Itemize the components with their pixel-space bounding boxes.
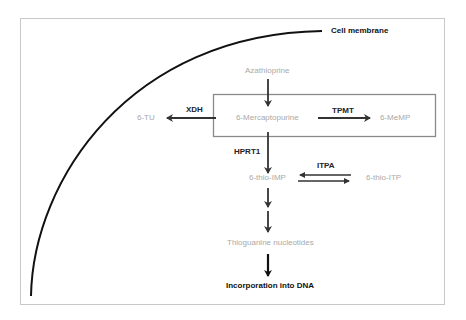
node-incorporation-into-dna: Incorporation into DNA xyxy=(226,281,314,291)
node-6-memp: 6-MeMP xyxy=(380,113,410,123)
node-azathioprine: Azathioprine xyxy=(245,66,289,76)
node-6-thio-imp: 6-thio-IMP xyxy=(249,173,286,183)
node-thioguanine-nucleotides: Thioguanine nucleotides xyxy=(227,238,314,248)
enzyme-hprt1: HPRT1 xyxy=(234,147,260,157)
figure-frame xyxy=(21,19,445,305)
enzyme-itpa: ITPA xyxy=(317,161,335,171)
enzyme-tpmt: TPMT xyxy=(332,106,354,116)
node-6-mercaptopurine: 6-Mercaptopurine xyxy=(236,113,299,123)
cell-membrane-label: Cell membrane xyxy=(331,26,388,36)
enzyme-xdh: XDH xyxy=(186,105,203,115)
node-6-thio-itp: 6-thio-ITP xyxy=(366,173,401,183)
pathway-diagram xyxy=(0,0,466,320)
node-6-tu: 6-TU xyxy=(137,113,155,123)
